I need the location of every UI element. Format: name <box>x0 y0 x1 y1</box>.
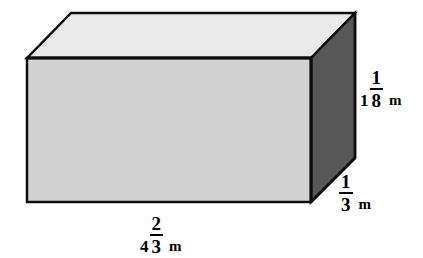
width-denominator: 3 <box>150 236 164 256</box>
width-fraction: 2 3 <box>150 214 164 256</box>
depth-unit: m <box>359 197 372 214</box>
height-fraction: 1 8 <box>370 68 384 110</box>
width-unit: m <box>169 239 182 256</box>
width-dimension-label: 4 2 3 m <box>140 214 182 256</box>
depth-denominator: 3 <box>339 194 353 214</box>
front-face <box>27 58 311 202</box>
height-whole-number: 1 <box>360 92 369 110</box>
height-denominator: 8 <box>370 90 384 110</box>
height-unit: m <box>389 93 402 110</box>
height-numerator: 1 <box>370 68 384 88</box>
top-face <box>27 13 355 58</box>
width-whole-number: 4 <box>140 238 149 256</box>
width-numerator: 2 <box>150 214 164 234</box>
depth-dimension-label: 1 3 m <box>338 172 371 214</box>
depth-numerator: 1 <box>339 172 353 192</box>
height-dimension-label: 1 1 8 m <box>360 68 402 110</box>
prism-drawing <box>0 0 423 258</box>
prism-figure: 1 1 8 m 1 3 m 4 2 3 m <box>0 0 423 258</box>
depth-fraction: 1 3 <box>339 172 353 214</box>
